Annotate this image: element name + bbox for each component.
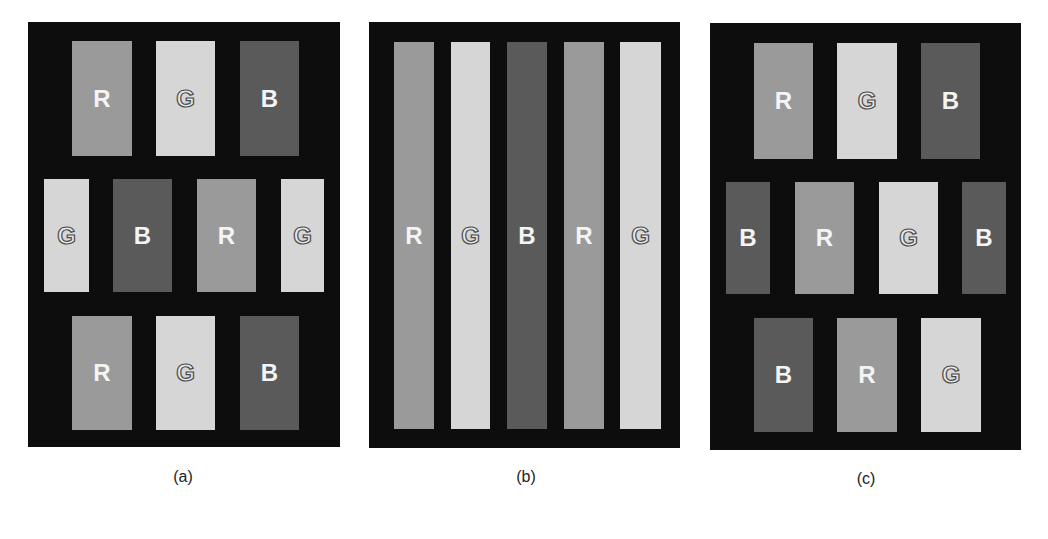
block-label: G	[461, 224, 480, 248]
color-block-g: G	[44, 179, 89, 292]
block-label: B	[134, 224, 151, 248]
block-label: G	[293, 224, 312, 248]
block-label: R	[575, 224, 592, 248]
block-label: G	[858, 89, 877, 113]
block-label: B	[261, 87, 278, 111]
block-label: G	[176, 87, 195, 111]
block-label: B	[261, 361, 278, 385]
color-block-r: R	[72, 41, 132, 156]
color-block-g: G	[620, 42, 661, 429]
block-label: G	[57, 224, 76, 248]
block-label: G	[899, 226, 918, 250]
color-block-b: B	[921, 43, 980, 159]
color-block-r: R	[795, 182, 854, 294]
block-label: B	[518, 224, 535, 248]
color-block-b: B	[507, 42, 547, 429]
color-block-g: G	[837, 43, 897, 159]
block-label: R	[816, 226, 833, 250]
block-label: B	[775, 363, 792, 387]
color-block-b: B	[240, 41, 299, 156]
panel-a: RGBGBRGRGB	[28, 22, 340, 447]
panel-caption-a: (a)	[153, 468, 213, 486]
block-label: R	[775, 89, 792, 113]
color-block-b: B	[962, 182, 1006, 294]
color-block-g: G	[156, 316, 215, 430]
color-block-g: G	[281, 179, 324, 292]
panel-caption-b: (b)	[496, 468, 556, 486]
color-block-r: R	[564, 42, 604, 429]
block-label: B	[942, 89, 959, 113]
color-block-b: B	[113, 179, 172, 292]
block-label: B	[739, 226, 756, 250]
panel-caption-c: (c)	[836, 470, 896, 488]
block-label: R	[405, 224, 422, 248]
color-block-r: R	[72, 316, 132, 430]
color-block-g: G	[451, 42, 490, 429]
color-block-b: B	[240, 316, 299, 430]
color-block-r: R	[197, 179, 256, 292]
color-block-g: G	[879, 182, 938, 294]
block-label: R	[93, 87, 110, 111]
block-label: B	[975, 226, 992, 250]
panel-b: RGBRG	[369, 22, 680, 448]
color-block-b: B	[754, 318, 813, 432]
block-label: R	[218, 224, 235, 248]
color-block-r: R	[754, 43, 813, 159]
color-block-g: G	[156, 41, 215, 156]
color-block-b: B	[726, 182, 770, 294]
panel-c: RGBBRGBBRG	[710, 23, 1021, 450]
color-block-g: G	[921, 318, 981, 432]
block-label: R	[858, 363, 875, 387]
block-label: R	[93, 361, 110, 385]
color-block-r: R	[394, 42, 434, 429]
block-label: G	[176, 361, 195, 385]
color-block-r: R	[837, 318, 897, 432]
block-label: G	[942, 363, 961, 387]
block-label: G	[631, 224, 650, 248]
